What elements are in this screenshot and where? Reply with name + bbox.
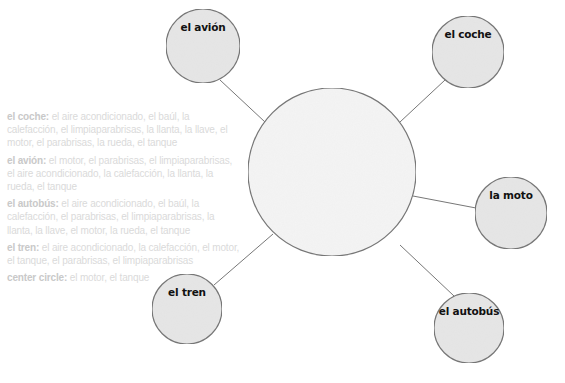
connector-line-coche xyxy=(400,80,445,122)
note-label: el tren: xyxy=(7,242,39,253)
note-label: el avión: xyxy=(7,155,46,166)
note-label: el coche: xyxy=(7,111,49,122)
node-label-autobus: el autobús xyxy=(424,305,514,317)
note-text: el aire acondicionado, la calefacción, e… xyxy=(7,242,239,266)
note-label: el autobús: xyxy=(7,198,59,209)
node-label-avion: el avión xyxy=(158,21,248,33)
circle-autobus xyxy=(434,293,504,363)
note-tren: el tren: el aire acondicionado, la calef… xyxy=(7,241,242,267)
answer-notes: el coche: el aire acondicionado, el baúl… xyxy=(7,110,242,288)
connector-line-autobus xyxy=(400,245,454,296)
circle-moto xyxy=(475,177,547,249)
note-center: center circle: el motor, el tanque xyxy=(7,271,242,284)
circle-coche xyxy=(432,16,504,88)
center-circle xyxy=(248,88,416,256)
note-coche: el coche: el aire acondicionado, el baúl… xyxy=(7,110,242,150)
node-label-coche: el coche xyxy=(423,28,513,40)
note-autobus: el autobús: el aire acondicionado, el ba… xyxy=(7,197,242,237)
note-text: el motor, el tanque xyxy=(67,272,149,283)
note-label: center circle: xyxy=(7,272,67,283)
node-label-moto: la moto xyxy=(466,189,556,201)
note-avion: el avión: el motor, el parabrisas, el li… xyxy=(7,154,242,194)
